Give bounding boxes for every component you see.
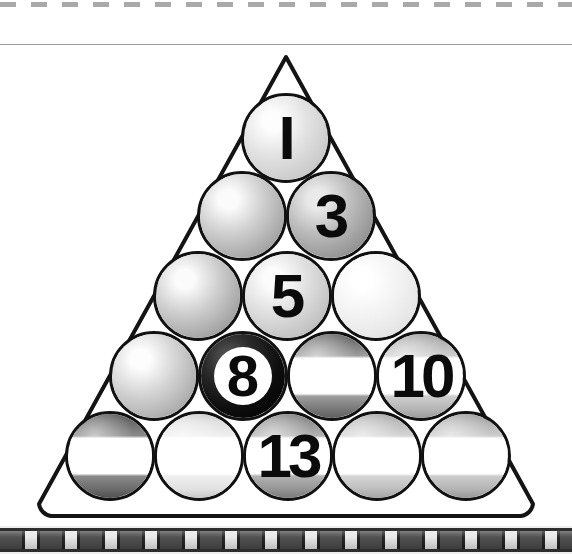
ball-face-stripe bbox=[424, 414, 508, 498]
page-root: I3581013 bbox=[0, 0, 572, 554]
billiard-ball-5[interactable]: 5 bbox=[242, 251, 332, 341]
ball-face-stripe bbox=[157, 414, 241, 498]
ball-number-label: 3 bbox=[315, 185, 347, 247]
film-strip-rail-bottom bbox=[0, 549, 572, 552]
ball-number-label: 13 bbox=[258, 425, 319, 487]
film-strip-border bbox=[0, 526, 572, 554]
hairline-rule-top bbox=[0, 44, 572, 45]
ball-number-label: 10 bbox=[391, 345, 452, 407]
billiard-ball-r3c3[interactable] bbox=[331, 251, 421, 341]
billiard-ball-r4c1[interactable] bbox=[109, 331, 199, 421]
rack-stage: I3581013 bbox=[0, 46, 572, 522]
ball-face-stripe bbox=[335, 414, 419, 498]
billiard-ball-r2c1[interactable] bbox=[197, 171, 287, 261]
billiard-ball-1[interactable]: I bbox=[241, 93, 331, 183]
dashed-rule-top bbox=[0, 2, 572, 7]
ball-face-solid bbox=[200, 174, 284, 258]
billiard-ball-10[interactable]: 10 bbox=[376, 331, 466, 421]
billiard-ball-r5c5[interactable] bbox=[421, 411, 511, 501]
ball-face-solid bbox=[112, 334, 196, 418]
ball-number-label: I bbox=[278, 107, 293, 169]
ball-number-label: 5 bbox=[271, 265, 303, 327]
billiard-ball-r4c3[interactable] bbox=[287, 331, 377, 421]
ball-number-label: 8 bbox=[227, 347, 259, 405]
billiard-ball-r5c1[interactable] bbox=[65, 411, 155, 501]
billiard-ball-8[interactable]: 8 bbox=[198, 331, 288, 421]
billiard-ball-r5c2[interactable] bbox=[154, 411, 244, 501]
billiard-ball-3[interactable]: 3 bbox=[286, 171, 376, 261]
ball-face-stripe bbox=[290, 334, 374, 418]
ball-face-solid bbox=[334, 254, 418, 338]
billiard-ball-r5c4[interactable] bbox=[332, 411, 422, 501]
billiard-ball-13[interactable]: 13 bbox=[243, 411, 333, 501]
billiard-ball-r3c1[interactable] bbox=[153, 251, 243, 341]
ball-face-solid bbox=[156, 254, 240, 338]
film-strip-sheen bbox=[0, 531, 572, 549]
ball-face-stripe bbox=[68, 414, 152, 498]
